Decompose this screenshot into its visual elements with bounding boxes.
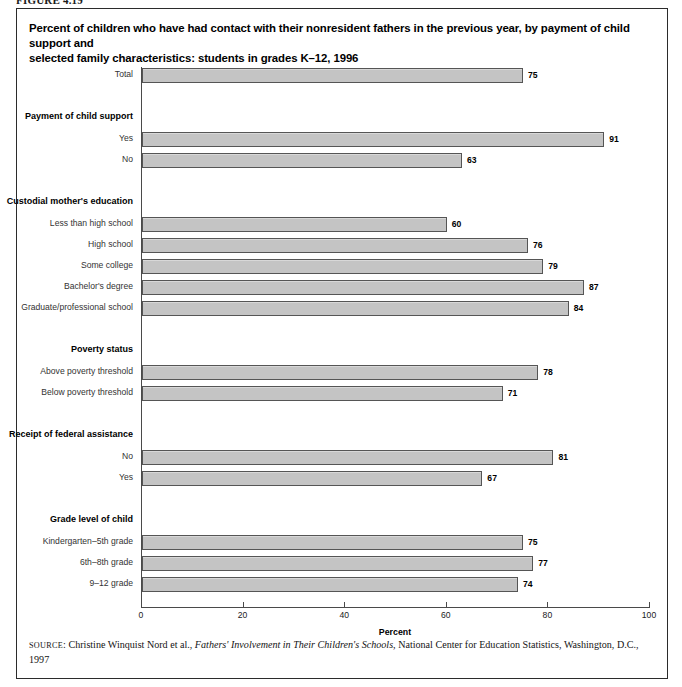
bar	[142, 280, 584, 295]
bar-value-label: 71	[508, 388, 518, 398]
x-axis-tick	[649, 602, 650, 608]
source-note: SOURCE: Christine Winquist Nord et al., …	[29, 638, 655, 666]
bar	[142, 238, 528, 253]
bar	[142, 556, 533, 571]
bar	[142, 365, 538, 380]
x-axis-tick-label: 60	[441, 610, 451, 620]
chart-group-heading: Grade level of child	[17, 512, 669, 530]
bar-value-label: 74	[523, 579, 533, 589]
chart-bar-row: Bachelor's degree87	[17, 279, 669, 297]
x-axis-tick-label: 80	[543, 610, 553, 620]
figure-title-line-1: Percent of children who have had contact…	[29, 21, 649, 51]
figure-title: Percent of children who have had contact…	[29, 21, 649, 66]
bar-label: High school	[0, 239, 133, 249]
bar	[142, 577, 518, 592]
group-label: Grade level of child	[0, 514, 133, 524]
chart-bar-row: No63	[17, 152, 669, 170]
bar	[142, 259, 543, 274]
chart-group-heading: Custodial mother's education	[17, 194, 669, 212]
bar	[142, 68, 523, 83]
group-label: Poverty status	[0, 344, 133, 354]
bar-value-label: 76	[533, 240, 543, 250]
chart-bar-row: Graduate/professional school84	[17, 300, 669, 318]
x-axis-tick	[446, 602, 447, 608]
bar	[142, 217, 447, 232]
chart-group-heading: Payment of child support	[17, 109, 669, 127]
source-year: 1997	[29, 654, 49, 665]
bar	[142, 471, 482, 486]
chart-bar-row: Kindergarten–5th grade75	[17, 534, 669, 552]
bar-label: Graduate/professional school	[0, 302, 133, 312]
x-axis-line	[141, 607, 649, 608]
bar-label: No	[0, 154, 133, 164]
bar	[142, 535, 523, 550]
bar-label: Total	[0, 69, 133, 79]
x-axis-tick-label: 100	[642, 610, 656, 620]
chart-bar-row: Yes67	[17, 470, 669, 488]
bar-value-label: 60	[452, 219, 462, 229]
figure-number: FIGURE 4.19	[16, 0, 83, 6]
bar-value-label: 67	[487, 473, 497, 483]
bar-chart: Total75Payment of child supportYes91No63…	[17, 61, 669, 623]
chart-bar-row: 9–12 grade74	[17, 576, 669, 594]
bar-label: Bachelor's degree	[0, 281, 133, 291]
bar-value-label: 91	[609, 134, 619, 144]
bar-value-label: 63	[467, 155, 477, 165]
source-label: SOURCE	[29, 641, 63, 650]
bar-value-label: 75	[528, 537, 538, 547]
chart-group-heading: Poverty status	[17, 342, 669, 360]
figure-box: Percent of children who have had contact…	[16, 8, 668, 679]
bar-label: Kindergarten–5th grade	[0, 536, 133, 546]
source-work-title: Fathers' Involvement in Their Children's…	[195, 639, 396, 650]
chart-bar-row: Total75	[17, 67, 669, 85]
bar-value-label: 78	[543, 367, 553, 377]
bar	[142, 301, 569, 316]
x-axis-tick-label: 0	[139, 610, 144, 620]
source-publisher: National Center for Education Statistics…	[396, 639, 639, 650]
bar	[142, 153, 462, 168]
chart-bar-row: Yes91	[17, 131, 669, 149]
bar-label: 9–12 grade	[0, 578, 133, 588]
x-axis-tick	[547, 602, 548, 608]
group-label: Receipt of federal assistance	[0, 429, 133, 439]
bar-value-label: 81	[558, 452, 568, 462]
bar-label: 6th–8th grade	[0, 557, 133, 567]
chart-bar-row: Above poverty threshold78	[17, 364, 669, 382]
chart-bar-row: Some college79	[17, 258, 669, 276]
bar	[142, 450, 553, 465]
x-axis-tick-label: 40	[339, 610, 349, 620]
bar	[142, 132, 604, 147]
chart-bar-row: Less than high school60	[17, 216, 669, 234]
group-label: Custodial mother's education	[0, 196, 133, 206]
bar-label: Yes	[0, 472, 133, 482]
bar-value-label: 87	[589, 282, 599, 292]
bar-value-label: 77	[538, 558, 548, 568]
group-label: Payment of child support	[0, 111, 133, 121]
bar-label: Less than high school	[0, 218, 133, 228]
chart-bar-row: High school76	[17, 237, 669, 255]
bar-value-label: 84	[574, 303, 584, 313]
chart-group-heading: Receipt of federal assistance	[17, 427, 669, 445]
x-axis-tick	[141, 602, 142, 608]
bar-label: Yes	[0, 133, 133, 143]
bar-value-label: 75	[528, 70, 538, 80]
bar	[142, 386, 503, 401]
bar-value-label: 79	[548, 261, 558, 271]
x-axis-tick	[243, 602, 244, 608]
bar-label: Above poverty threshold	[0, 366, 133, 376]
chart-bar-row: Below poverty threshold71	[17, 385, 669, 403]
bar-label: No	[0, 451, 133, 461]
bar-label: Below poverty threshold	[0, 387, 133, 397]
source-author: Christine Winquist Nord et al.,	[68, 639, 194, 650]
chart-bar-row: 6th–8th grade77	[17, 555, 669, 573]
x-axis-tick	[344, 602, 345, 608]
chart-bar-row: No81	[17, 449, 669, 467]
x-axis-tick-label: 20	[238, 610, 248, 620]
bar-label: Some college	[0, 260, 133, 270]
x-axis-title: Percent	[141, 627, 649, 637]
